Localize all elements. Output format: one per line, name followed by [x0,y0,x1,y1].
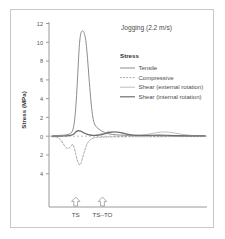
legend-label: Shear (internal rotation) [139,94,202,100]
legend-label: Shear (external rotation) [139,84,204,90]
figure-frame: 12 10 8 6 4 2 0 2 4 Stress (MPa) Jogging… [10,9,214,228]
y-tick-label: 4 [40,171,43,177]
event-label-ts: TS [72,211,80,218]
y-tick-label: 4 [40,96,43,102]
chart-legend: Stress TensileCompressiveShear (external… [120,52,203,100]
y-tick-label: 8 [40,58,43,64]
y-axis-tick-labels: 12 10 8 6 4 2 0 2 4 [37,21,43,177]
chart-plot-area: 12 10 8 6 4 2 0 2 4 Stress (MPa) Jogging… [11,10,215,229]
legend-title: Stress [120,52,139,59]
series-line-compressive [52,137,205,165]
y-tick-label: 6 [40,77,43,83]
legend-label: Tensile [139,65,158,71]
legend-label: Compressive [139,75,175,81]
series-line-tensile [52,31,205,136]
event-markers-group [72,197,107,206]
y-tick-label: 0 [40,134,43,140]
event-label-ts-to: TS–TO [93,211,113,218]
y-tick-label: 10 [37,40,43,46]
stress-time-chart: 12 10 8 6 4 2 0 2 4 Stress (MPa) Jogging… [11,10,215,229]
y-axis-title: Stress (MPa) [20,91,27,128]
y-tick-label: 2 [40,152,43,158]
y-tick-label: 2 [40,115,43,121]
y-tick-label: 12 [37,21,43,27]
up-arrow-icon [98,197,106,206]
chart-title: Jogging (2.2 m/s) [121,24,172,32]
up-arrow-icon [72,197,80,206]
